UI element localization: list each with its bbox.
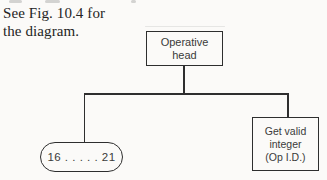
- scan-artifact: [131, 0, 136, 3]
- node-operative-head: Operative head: [146, 31, 223, 66]
- node-get-valid-integer-label-line-1: Get valid: [265, 125, 306, 138]
- node-operative-head-label-line-1: Operative: [161, 36, 209, 49]
- scan-artifact: [145, 26, 225, 27]
- node-range-oval: 16 . . . . . 21: [40, 142, 123, 172]
- caption-line-2: the diagram.: [3, 22, 133, 40]
- node-operative-head-label-line-2: head: [172, 49, 196, 62]
- figure-caption: See Fig. 10.4 for the diagram.: [3, 4, 133, 40]
- node-get-valid-integer: Get valid integer (Op I.D.): [252, 117, 319, 171]
- node-range-oval-label: 16 . . . . . 21: [47, 151, 115, 164]
- connector-root-vertical: [183, 66, 185, 94]
- connector-right-vertical: [287, 93, 289, 118]
- node-get-valid-integer-label-line-2: integer: [269, 138, 301, 151]
- node-get-valid-integer-label-line-3: (Op I.D.): [265, 151, 305, 164]
- scan-artifact: [45, 0, 60, 3]
- connector-horizontal: [84, 93, 289, 95]
- caption-line-1: See Fig. 10.4 for: [3, 4, 133, 22]
- figure-page: See Fig. 10.4 for the diagram. Operative…: [0, 0, 327, 180]
- connector-left-vertical: [84, 93, 86, 143]
- scan-artifact: [9, 0, 22, 3]
